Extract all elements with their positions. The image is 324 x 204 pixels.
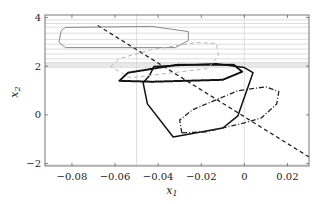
background-lines: [45, 15, 309, 166]
x-axis-label-sub: 1: [173, 189, 178, 198]
series-dashed-line: [98, 26, 309, 158]
plot-frame: [45, 15, 309, 166]
x-tick-label: −0.04: [143, 171, 174, 182]
chart-svg: −0.08−0.06−0.04−0.0200.02 −2024 x1 x2: [0, 0, 324, 204]
series-layer: [59, 26, 309, 158]
x-axis-ticks: −0.08−0.06−0.04−0.0200.02: [57, 15, 299, 182]
x-tick-label: −0.06: [100, 171, 131, 182]
x-tick-label: −0.02: [186, 171, 217, 182]
x-tick-label: 0: [241, 171, 247, 182]
y-axis-label-sub: 2: [13, 86, 22, 92]
x-tick-label: 0.02: [276, 171, 298, 182]
y-axis-label: x2: [8, 86, 22, 97]
y-tick-label: 2: [35, 61, 41, 72]
y-tick-label: 4: [35, 12, 41, 23]
x-tick-label: −0.08: [57, 171, 88, 182]
y-axis-ticks: −2024: [26, 12, 309, 169]
y-tick-label: 0: [35, 109, 41, 120]
y-tick-label: −2: [26, 158, 41, 169]
x-axis-label: x1: [166, 184, 177, 198]
series-dash-dot-polygon: [180, 87, 279, 133]
